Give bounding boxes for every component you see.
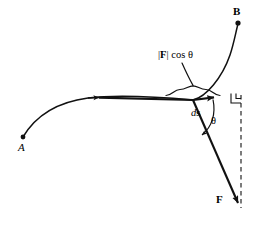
endpoint-dot-a — [21, 135, 26, 140]
particle-path-from-A-to-B — [23, 96, 193, 137]
displacement-label-s: s — [196, 107, 200, 118]
endpoint-dot-b — [235, 20, 240, 25]
right-angle-marker-inner — [236, 94, 241, 99]
angle-label: θ — [211, 116, 216, 127]
force-component-rest: | cos θ — [167, 49, 193, 60]
force-component-label: |F| cos θ — [158, 50, 193, 61]
force-vector-label: F — [216, 194, 223, 205]
endpoint-label-a: A — [18, 142, 25, 153]
displacement-label: ds — [191, 108, 200, 119]
diagram-canvas — [0, 0, 258, 225]
endpoint-label-b: B — [233, 6, 240, 17]
path-emphasis-segment — [99, 98, 193, 100]
force-component-leader-line — [182, 63, 193, 85]
tangent-displacement-arrow — [193, 97, 214, 100]
physics-diagram-figure: B A F |F| cos θ ds θ — [0, 0, 258, 225]
